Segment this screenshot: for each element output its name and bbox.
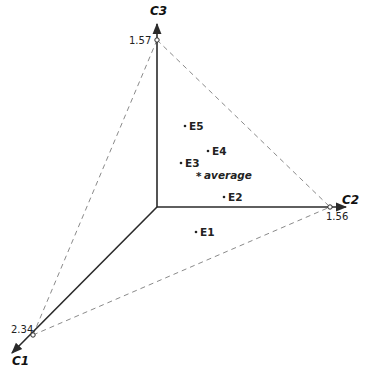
axis-label-c1: C1 [12, 354, 29, 368]
data-point-e5: E5 [184, 120, 204, 132]
axis-label-c3: C3 [150, 4, 167, 18]
tick-marker-c2 [328, 205, 332, 209]
point-marker [180, 162, 183, 165]
point-label: E4 [212, 145, 226, 157]
point-label: E3 [185, 157, 199, 169]
data-point-e4: E4 [207, 145, 227, 157]
dashed-edge-c1-c2 [33, 207, 330, 335]
average-marker: * [196, 170, 202, 182]
average-label: average [204, 169, 252, 181]
tick-label-c2: 1.56 [326, 211, 348, 222]
point-label: E5 [189, 120, 203, 132]
tick-label-c3: 1.57 [129, 35, 151, 46]
axes [12, 24, 346, 353]
ternary-axes-diagram: C3 C2 C1 1.57 1.56 2.34 E5 E4 E3 * avera… [0, 0, 369, 375]
point-label: E2 [228, 191, 242, 203]
data-point-average: * average [196, 169, 252, 182]
point-label: E1 [200, 226, 214, 238]
axis-c1 [12, 207, 157, 353]
point-marker [195, 231, 198, 234]
data-point-e1: E1 [195, 226, 215, 238]
dashed-edge-c3-c1 [33, 40, 157, 335]
tick-label-c1: 2.34 [11, 324, 33, 335]
point-marker [184, 125, 187, 128]
point-marker [223, 196, 226, 199]
tick-marker-c3 [155, 38, 159, 42]
data-point-e3: E3 [180, 157, 200, 169]
axis-label-c2: C2 [342, 193, 359, 207]
data-point-e2: E2 [223, 191, 243, 203]
point-marker [207, 150, 210, 153]
dashed-edge-c3-c2 [157, 40, 330, 207]
dashed-triangle [33, 40, 330, 335]
